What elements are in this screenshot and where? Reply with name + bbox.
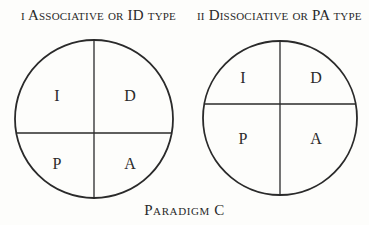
panel-ii-quadrant-i-label: I (240, 69, 245, 86)
panel-ii-quadrant-d-label: D (310, 69, 322, 86)
panel-i-quadrant-a-label: A (124, 155, 136, 172)
panel-ii-quadrant-p-label: P (239, 130, 248, 147)
panel-ii-dissociative: I D P A (203, 41, 357, 195)
paradigm-diagram: I D P A I D P A (0, 0, 369, 225)
panel-i-associative: I D P A (15, 40, 173, 198)
panel-i-quadrant-i-label: I (54, 87, 59, 104)
panel-ii-quadrant-a-label: A (310, 130, 322, 147)
panel-i-quadrant-p-label: P (53, 155, 62, 172)
figure-caption: Paradigm C (0, 202, 369, 219)
panel-i-quadrant-d-label: D (124, 87, 136, 104)
